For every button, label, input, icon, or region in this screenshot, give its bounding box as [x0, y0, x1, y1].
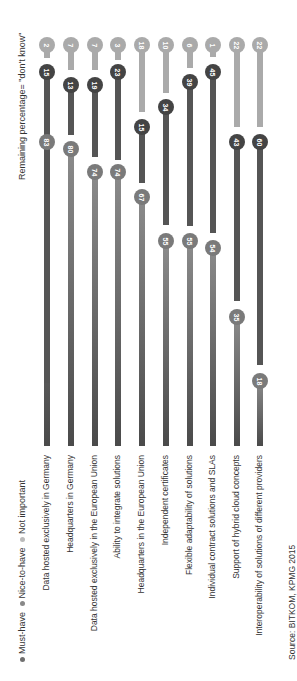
legend-must-have-dot: [20, 657, 25, 662]
nice-to-have-dot: 34: [158, 99, 174, 115]
category-label: Individual contract solutions and SLAs: [207, 455, 217, 599]
category-label: Flexible adaptability of solutions: [184, 455, 194, 575]
nice-to-have-dot: 15: [134, 119, 150, 135]
source-label: Source: BITKOM, KPMG 2015: [287, 545, 297, 660]
must-have-bar: [163, 245, 169, 446]
nice-to-have-bar: [187, 82, 193, 226]
must-have-dot: 55: [182, 233, 198, 249]
nice-to-have-dot: 19: [87, 77, 103, 93]
nice-to-have-bar: [44, 72, 50, 383]
category-label: Data hosted exclusively in Germany: [41, 455, 51, 591]
must-have-bar: [68, 153, 74, 446]
must-have-dot: 54: [205, 240, 221, 256]
not-important-dot: 7: [87, 37, 103, 53]
not-important-dot: 22: [252, 37, 268, 53]
category-label: Independent certificates: [160, 455, 170, 545]
nice-to-have-dot: 23: [110, 64, 126, 80]
not-important-bar: [139, 45, 145, 112]
nice-to-have-bar: [139, 127, 145, 183]
legend-nice-to-have: Nice-to-have: [17, 547, 27, 598]
legend: Must-have Nice-to-have Not important: [17, 480, 27, 665]
not-important-dot: 1: [205, 37, 221, 53]
must-have-bar: [139, 201, 145, 446]
note-label: Remaining percentage= "don't know": [17, 33, 27, 180]
must-have-dot: 18: [252, 373, 268, 389]
nice-to-have-dot: 45: [205, 64, 221, 80]
not-important-bar: [234, 45, 240, 127]
must-have-bar: [257, 380, 263, 446]
must-have-dot: 67: [134, 189, 150, 205]
not-important-dot: 7: [63, 37, 79, 53]
legend-not-important-dot: [20, 537, 25, 542]
category-label: Data hosted exclusively in the European …: [89, 455, 99, 631]
not-important-dot: 6: [182, 37, 198, 53]
legend-nice-to-have-dot: [20, 601, 25, 606]
nice-to-have-dot: 43: [229, 134, 245, 150]
must-have-bar: [115, 175, 121, 446]
category-label: Interoperability of solutions of differe…: [254, 455, 264, 636]
legend-must-have: Must-have: [17, 612, 27, 654]
category-label: Ability to integrate solutions: [112, 455, 122, 558]
nice-to-have-dot: 60: [252, 134, 268, 150]
must-have-dot: 80: [63, 141, 79, 157]
not-important-dot: 10: [158, 37, 174, 53]
nice-to-have-bar: [115, 72, 121, 160]
not-important-dot: 18: [134, 37, 150, 53]
must-have-dot: 74: [110, 164, 126, 180]
not-important-dot: 22: [229, 37, 245, 53]
category-label: Headquarters in Germany: [65, 455, 75, 553]
nice-to-have-dot: 13: [63, 77, 79, 93]
nice-to-have-bar: [234, 142, 240, 301]
not-important-dot: 2: [39, 37, 55, 53]
nice-to-have-dot: 15: [39, 64, 55, 80]
must-have-bar: [92, 175, 98, 446]
nice-to-have-bar: [92, 85, 98, 157]
category-label: Headquarters in the European Union: [136, 455, 146, 593]
must-have-bar: [210, 248, 216, 446]
must-have-dot: 35: [229, 309, 245, 325]
nice-to-have-bar: [257, 142, 263, 365]
nice-to-have-bar: [163, 107, 169, 225]
must-have-bar: [234, 318, 240, 446]
nice-to-have-bar: [210, 72, 216, 233]
must-have-dot: 55: [158, 233, 174, 249]
not-important-bar: [257, 45, 263, 127]
legend-not-important: Not important: [17, 480, 27, 534]
not-important-dot: 3: [110, 37, 126, 53]
must-have-dot: 74: [87, 164, 103, 180]
must-have-bar: [187, 245, 193, 446]
nice-to-have-dot: 39: [182, 74, 198, 90]
category-label: Support of hybrid cloud concepts: [231, 455, 241, 579]
must-have-dot: 83: [39, 134, 55, 150]
